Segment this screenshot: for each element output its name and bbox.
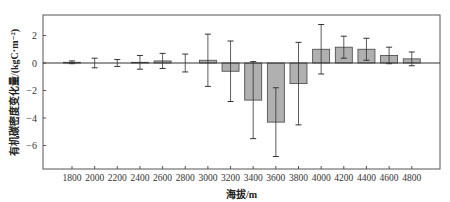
x-axis-label: 海拔/m <box>43 186 440 201</box>
x-tick-label: 4000 <box>312 173 331 183</box>
x-tick-label: 4400 <box>357 173 376 183</box>
bar-chart: 20−2−4−618002000220024002600280030003200… <box>0 0 450 202</box>
y-axis-label: 有机碳密度变化量/(kgC·m⁻²) <box>4 15 24 169</box>
y-tick-label: 0 <box>32 58 37 69</box>
y-tick-label: −6 <box>26 140 37 151</box>
x-tick-label: 4200 <box>334 173 353 183</box>
x-tick-label: 2800 <box>176 173 195 183</box>
x-tick-label: 3400 <box>244 173 263 183</box>
x-tick-label: 2200 <box>108 173 127 183</box>
x-tick-label: 3800 <box>289 173 308 183</box>
y-axis-label-text: 有机碳密度变化量/(kgC·m⁻²) <box>7 28 22 155</box>
x-tick-label: 4600 <box>380 173 399 183</box>
x-tick-label: 3200 <box>221 173 240 183</box>
x-tick-label: 2400 <box>130 173 149 183</box>
plot-frame <box>43 15 440 169</box>
y-tick-label: 2 <box>32 30 37 41</box>
x-tick-label: 3600 <box>266 173 285 183</box>
x-tick-label: 1800 <box>63 173 82 183</box>
x-tick-label: 2000 <box>85 173 104 183</box>
x-tick-label: 2600 <box>153 173 172 183</box>
x-tick-label: 3000 <box>198 173 217 183</box>
y-tick-label: −4 <box>26 113 37 124</box>
y-tick-label: −2 <box>26 85 37 96</box>
x-tick-label: 4800 <box>402 173 421 183</box>
